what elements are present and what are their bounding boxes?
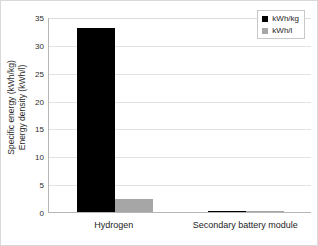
legend-swatch-icon <box>262 28 268 34</box>
x-axis-category-labels: HydrogenSecondary battery module <box>48 220 311 240</box>
plot-area <box>48 18 311 213</box>
x-axis-category-label: Hydrogen <box>48 220 180 240</box>
bar-kwh-kg[interactable] <box>208 211 246 213</box>
bar-groups <box>49 18 311 212</box>
y-axis-tick-label: 35 <box>35 14 44 23</box>
legend-label: kWh/kg <box>272 14 299 23</box>
legend-item[interactable]: kWh/kg <box>262 14 299 23</box>
y-axis-title-line-2: Energy density (kWh/l) <box>16 60 27 154</box>
chart-figure: Specific energy (kWh/kg) Energy density … <box>0 0 318 246</box>
y-axis-tick-label: 15 <box>35 125 44 134</box>
y-axis-tick-label: 20 <box>35 97 44 106</box>
bar-kwh-l[interactable] <box>115 199 153 212</box>
y-axis-title-line-1: Specific energy (kWh/kg) <box>6 60 17 154</box>
y-axis-tick-label: 10 <box>35 153 44 162</box>
bar-group <box>180 18 311 212</box>
y-axis-tick-label: 0 <box>40 209 44 218</box>
y-axis-tick-labels: 05101520253035 <box>29 1 47 214</box>
chart-legend: kWh/kgkWh/l <box>257 10 305 39</box>
legend-label: kWh/l <box>272 26 292 35</box>
y-axis-title: Specific energy (kWh/kg) Energy density … <box>1 1 31 214</box>
bar-kwh-kg[interactable] <box>77 28 115 212</box>
y-axis-tick-label: 30 <box>35 41 44 50</box>
bar-kwh-l[interactable] <box>246 211 284 213</box>
bar-group <box>49 18 180 212</box>
x-axis-category-label: Secondary battery module <box>180 220 312 240</box>
legend-swatch-icon <box>262 16 268 22</box>
legend-item[interactable]: kWh/l <box>262 26 299 35</box>
y-axis-tick-label: 25 <box>35 69 44 78</box>
y-axis-tick-label: 5 <box>40 181 44 190</box>
